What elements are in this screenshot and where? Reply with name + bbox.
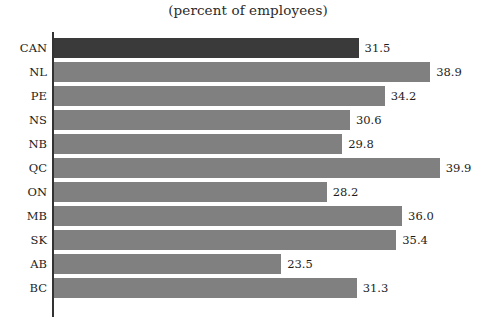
plot-area: CAN31.5NL38.9PE34.2NS30.6NB29.8QC39.9ON2… <box>0 30 496 320</box>
bar <box>54 62 430 82</box>
bar-value-label: 39.9 <box>446 158 472 178</box>
bar-value-label: 31.3 <box>363 278 389 298</box>
bar-row: AB23.5 <box>0 254 496 278</box>
bar-value-label: 29.8 <box>348 134 374 154</box>
bar <box>54 254 281 274</box>
bar-value-label: 35.4 <box>402 230 428 250</box>
bar-track: 23.5 <box>54 254 496 274</box>
bar-track: 30.6 <box>54 110 496 130</box>
bar-chart: (percent of employees) CAN31.5NL38.9PE34… <box>0 0 496 326</box>
bar-row: NL38.9 <box>0 62 496 86</box>
bar <box>54 230 396 250</box>
bar-row: CAN31.5 <box>0 38 496 62</box>
bar-track: 36.0 <box>54 206 496 226</box>
bar-row: QC39.9 <box>0 158 496 182</box>
bar-row: SK35.4 <box>0 230 496 254</box>
bar-row: BC31.3 <box>0 278 496 302</box>
bar <box>54 86 385 106</box>
bar-row: ON28.2 <box>0 182 496 206</box>
category-label: CAN <box>20 38 52 58</box>
bar-row: NS30.6 <box>0 110 496 134</box>
bar-series: CAN31.5NL38.9PE34.2NS30.6NB29.8QC39.9ON2… <box>0 38 496 302</box>
bar-value-label: 36.0 <box>408 206 434 226</box>
category-label: QC <box>29 158 52 178</box>
bar-track: 38.9 <box>54 62 496 82</box>
bar-value-label: 38.9 <box>436 62 462 82</box>
bar-value-label: 34.2 <box>391 86 417 106</box>
category-label: ON <box>28 182 53 202</box>
bar <box>54 206 402 226</box>
bar <box>54 38 359 58</box>
category-label: NB <box>28 134 52 154</box>
chart-title: (percent of employees) <box>0 2 496 18</box>
bar-value-label: 28.2 <box>333 182 359 202</box>
bar <box>54 182 327 202</box>
bar <box>54 110 350 130</box>
bar-track: 35.4 <box>54 230 496 250</box>
bar-track: 31.3 <box>54 278 496 298</box>
bar-row: MB36.0 <box>0 206 496 230</box>
category-label: PE <box>31 86 52 106</box>
bar <box>54 278 357 298</box>
bar <box>54 158 440 178</box>
category-label: NS <box>29 110 52 130</box>
bar-value-label: 30.6 <box>356 110 382 130</box>
bar-track: 28.2 <box>54 182 496 202</box>
category-label: NL <box>29 62 52 82</box>
category-label: SK <box>31 230 52 250</box>
bar-row: PE34.2 <box>0 86 496 110</box>
category-label: AB <box>30 254 52 274</box>
category-label: MB <box>27 206 52 226</box>
bar-value-label: 31.5 <box>365 38 391 58</box>
category-label: BC <box>30 278 52 298</box>
bar-row: NB29.8 <box>0 134 496 158</box>
bar-track: 29.8 <box>54 134 496 154</box>
bar <box>54 134 342 154</box>
bar-track: 39.9 <box>54 158 496 178</box>
bar-value-label: 23.5 <box>287 254 313 274</box>
bar-track: 34.2 <box>54 86 496 106</box>
bar-track: 31.5 <box>54 38 496 58</box>
